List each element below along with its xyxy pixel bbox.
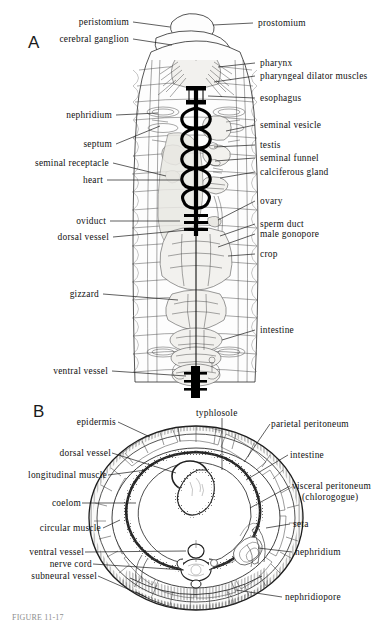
label-nephridium-b: nephridium [295, 547, 341, 558]
label-epidermis: epidermis [77, 417, 116, 428]
figure-caption-clipped: FIGURE 11-17 [12, 613, 378, 622]
label-circular-muscle: circular muscle [40, 523, 101, 534]
label-parietal-peritoneum: parietal peritoneum [271, 419, 349, 430]
label-heart: heart [83, 175, 103, 186]
label-cerebral-ganglion: cerebral ganglion [59, 34, 129, 45]
label-esophagus: esophagus [260, 93, 301, 104]
label-seminal-funnel: seminal funnel [260, 153, 319, 164]
label-intestine-a: intestine [260, 325, 294, 336]
label-typhlosole: typhlosole [196, 408, 238, 419]
label-seminal-receptacle: seminal receptacle [35, 158, 109, 169]
label-nephridium: nephridium [66, 110, 112, 121]
label-septum: septum [83, 139, 112, 150]
label-pharynx: pharynx [260, 58, 292, 69]
label-seminal-vesicle: seminal vesicle [260, 120, 321, 131]
panel-letter-b: B [33, 402, 45, 422]
label-male-gonopore: male gonopore [260, 229, 319, 240]
label-ventral-vessel-b: ventral vessel [29, 547, 84, 558]
label-peristomium: peristomium [79, 17, 129, 28]
label-nephridiopore: nephridiopore [285, 592, 341, 603]
label-prostomium: prostomium [258, 18, 306, 29]
label-nerve-cord: nerve cord [50, 559, 92, 570]
label-intestine-b: intestine [290, 450, 324, 461]
label-oviduct: oviduct [76, 216, 106, 227]
label-gizzard: gizzard [70, 289, 99, 300]
label-pharyngeal-dilator-muscles: pharyngeal dilator muscles [260, 71, 368, 82]
label-chlorogogue: (chlorogogue) [292, 492, 371, 503]
label-coelom: coelom [52, 498, 81, 509]
label-testis: testis [260, 140, 281, 151]
figure-canvas: A B peristomium cerebral ganglion nephri… [0, 0, 388, 622]
label-dorsal-vessel-a: dorsal vessel [58, 232, 109, 243]
label-seta: seta [293, 519, 309, 530]
label-sperm-duct: sperm duct [260, 219, 304, 230]
label-visceral-peritoneum-main: visceral peritoneum [292, 481, 371, 491]
label-subneural-vessel: subneural vessel [31, 571, 97, 582]
label-dorsal-vessel-b: dorsal vessel [60, 448, 111, 459]
cross-section [89, 426, 303, 611]
label-ovary: ovary [260, 196, 283, 207]
label-visceral-peritoneum: visceral peritoneum (chlorogogue) [292, 481, 371, 502]
label-calciferous-gland: calciferous gland [260, 167, 329, 178]
label-longitudinal-muscle: longitudinal muscle [28, 470, 107, 481]
panel-letter-a: A [28, 33, 40, 53]
label-ventral-vessel-a: ventral vessel [53, 366, 108, 377]
label-crop: crop [260, 249, 278, 260]
